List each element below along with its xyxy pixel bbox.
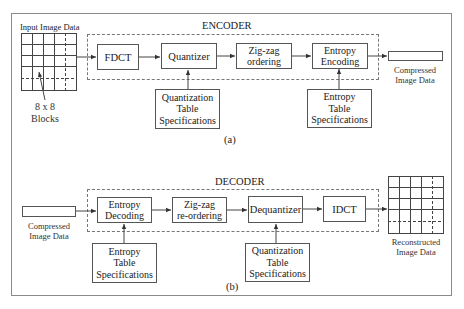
arrow-blocks-pointer: [39, 72, 45, 100]
connector-arrows: [0, 0, 464, 309]
